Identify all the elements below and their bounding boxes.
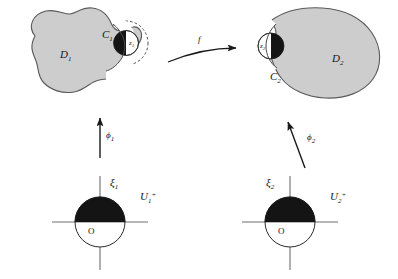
right-domain-group: D2 C2 z2	[257, 8, 380, 98]
figure-canvas: D1 C1 z1 D2 C2 z2	[0, 0, 398, 279]
left-black-half-disk	[114, 31, 139, 56]
map-arrow-f	[168, 48, 236, 62]
right-xi-axis-label: ξ2	[266, 176, 275, 191]
map-arrow-phi2-group: ϕ2	[288, 122, 316, 168]
map-arrow-f-group: f	[168, 34, 236, 62]
map-label-phi2: ϕ2	[307, 132, 316, 145]
left-domain-group: D1 C1 z1	[31, 8, 148, 93]
right-upper-half-disk-filled	[265, 197, 315, 222]
left-set-label-U1plus: U1+	[140, 190, 156, 205]
left-upper-half-disk-filled	[75, 197, 125, 222]
left-half-disk-group: ξ1 U1+ O	[52, 176, 156, 270]
map-label-phi1: ϕ1	[106, 130, 114, 143]
right-domain-region	[270, 8, 380, 98]
right-half-disk-group: ξ2 U2+ O	[242, 176, 346, 270]
left-origin-label: O	[88, 226, 95, 236]
right-set-label-U2plus: U2+	[330, 190, 346, 205]
map-arrow-phi1-group: ϕ1	[100, 118, 114, 158]
left-xi-axis-label: ξ1	[110, 176, 118, 191]
map-arrow-phi2	[288, 122, 305, 168]
diagram-svg: D1 C1 z1 D2 C2 z2	[0, 0, 398, 279]
right-origin-label: O	[278, 226, 285, 236]
map-label-f: f	[198, 34, 202, 44]
